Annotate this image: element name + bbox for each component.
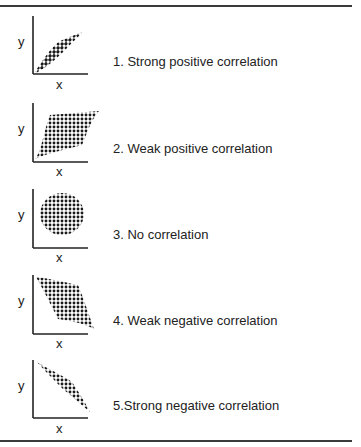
- x-axis-label: x: [56, 165, 63, 178]
- scatter-plot-strong-negative: y x: [0, 358, 110, 444]
- caption-strong-negative: 5.Strong negative correlation: [113, 398, 279, 413]
- panel-weak-positive: y x 2. Weak positive correlation: [0, 101, 361, 187]
- scatter-diagram: [0, 273, 110, 359]
- y-axis-label: y: [18, 122, 25, 135]
- bottom-rule: [0, 440, 352, 442]
- x-axis-label: x: [56, 422, 63, 435]
- top-rule: [0, 5, 352, 7]
- scatter-plot-no-correlation: y x: [0, 187, 110, 273]
- y-axis-label: y: [18, 294, 25, 307]
- x-axis-label: x: [56, 337, 63, 350]
- scatter-diagram: [0, 101, 110, 187]
- caption-no-correlation: 3. No correlation: [113, 227, 208, 242]
- panel-strong-negative: y x 5.Strong negative correlation: [0, 358, 361, 444]
- panel-weak-negative: y x 4. Weak negative correlation: [0, 273, 361, 359]
- scatter-diagram: [0, 187, 110, 273]
- caption-weak-positive: 2. Weak positive correlation: [113, 141, 272, 156]
- scatter-plot-strong-positive: y x: [0, 14, 110, 100]
- scatter-plot-weak-negative: y x: [0, 273, 110, 359]
- x-axis-label: x: [56, 78, 63, 91]
- y-axis-label: y: [18, 35, 25, 48]
- scatter-diagram: [0, 358, 110, 444]
- panel-strong-positive: y x 1. Strong positive correlation: [0, 14, 361, 100]
- x-axis-label: x: [56, 251, 63, 264]
- scatter-plot-weak-positive: y x: [0, 101, 110, 187]
- scatter-diagram: [0, 14, 110, 100]
- y-axis-label: y: [18, 208, 25, 221]
- panel-no-correlation: y x 3. No correlation: [0, 187, 361, 273]
- y-axis-label: y: [18, 379, 25, 392]
- caption-strong-positive: 1. Strong positive correlation: [113, 54, 278, 69]
- caption-weak-negative: 4. Weak negative correlation: [113, 313, 278, 328]
